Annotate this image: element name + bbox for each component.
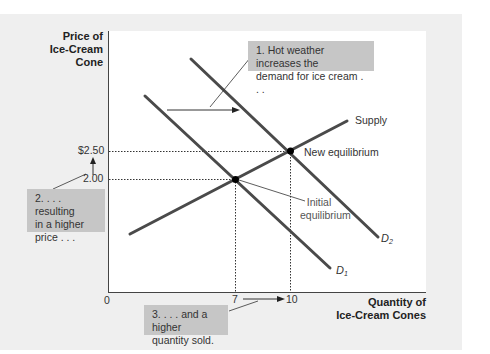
shift-arrowhead [232, 107, 240, 113]
quantity-arrowhead [277, 296, 285, 302]
note-higher-price: 2. . . . resulting in a higher price . .… [27, 189, 105, 232]
x-title-line: Ice-Cream Cones [300, 309, 426, 322]
x-axis-title: Quantity of Ice-Cream Cones [300, 296, 426, 322]
note2-line: in a higher [35, 218, 99, 231]
y-title-line: Ice-Cream [40, 43, 103, 56]
note2-leader [53, 174, 86, 189]
y-tick-high: $2.50 [78, 144, 104, 156]
d1-letter: D [336, 264, 344, 276]
note2-line: price . . . [35, 231, 99, 244]
note-demand-increase: 1. Hot weather increases the demand for … [248, 41, 374, 71]
d1-label: D1 [336, 264, 348, 277]
initial-equilibrium-label: Initial equilibrium [300, 196, 338, 222]
note1-line: 1. Hot weather increases the [256, 44, 368, 70]
y-tick-low: 2.00 [83, 172, 103, 184]
initial-equilibrium-point [232, 176, 239, 183]
y-axis-title: Price of Ice-Cream Cone [40, 30, 103, 69]
d2-label: D2 [381, 232, 393, 245]
note2-line: 2. . . . resulting [35, 192, 99, 218]
note1-line: demand for ice cream . . . [256, 70, 368, 96]
note-higher-quantity: 3. . . . and a higher quantity sold. [144, 305, 228, 335]
x-tick-origin: 0 [104, 294, 110, 306]
d2-subscript: 2 [389, 238, 393, 245]
d2-letter: D [381, 232, 389, 244]
note3-line: quantity sold. [152, 334, 222, 347]
d1-subscript: 1 [344, 270, 348, 277]
y-title-line: Price of [40, 30, 103, 43]
note3-line: 3. . . . and a higher [152, 308, 222, 334]
x-title-line: Quantity of [300, 296, 426, 309]
initial-eq-line: equilibrium [300, 209, 338, 222]
new-equilibrium-point [287, 148, 294, 155]
supply-label: Supply [355, 114, 387, 127]
x-tick-high: 10 [286, 293, 298, 305]
x-tick-low: 7 [232, 293, 238, 305]
initial-eq-leader [239, 180, 305, 201]
new-equilibrium-label: New equilibrium [304, 146, 379, 159]
initial-eq-line: Initial [300, 196, 338, 209]
price-arrowhead [90, 157, 96, 164]
y-title-line: Cone [40, 56, 103, 69]
